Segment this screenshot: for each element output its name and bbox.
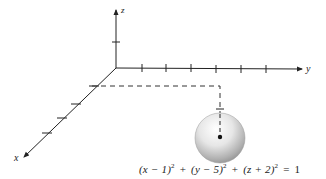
eq-term-x: (x − 1) [139,163,171,175]
sphere-center-point [218,135,222,139]
x-axis: x [13,68,116,163]
eq-term-y: (y − 5) [191,163,223,175]
sphere-diagram: z y x [0,0,326,179]
x-axis-label: x [13,152,19,163]
z-axis-label: z [120,5,125,15]
y-axis-label: y [305,63,311,74]
sphere [195,113,245,163]
eq-term-z: (z + 2) [243,163,274,175]
eq-rhs: 1 [295,163,301,175]
z-axis: z [112,5,125,68]
y-axis: y [116,63,311,74]
sphere-equation: (x − 1)2 + (y − 5)2 + (z + 2)2 = 1 [139,162,300,175]
